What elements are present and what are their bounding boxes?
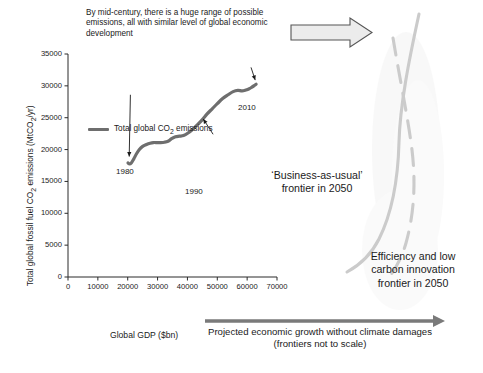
y-axis-title-sub2: 2 xyxy=(30,117,37,121)
legend-label-total-global-co2-emissions: Total global CO2 emissions xyxy=(114,124,212,135)
y-axis-title: Total global fossil fuel CO2 emissions (… xyxy=(25,86,37,306)
bottom-caption: Projected economic growth without climat… xyxy=(160,326,480,350)
y-axis-title-post: /yr) xyxy=(25,105,35,117)
bottom-caption-line1: Projected economic growth without climat… xyxy=(208,326,432,337)
plot-area xyxy=(0,40,300,305)
y-axis-title-mid: emissions (MtCO xyxy=(25,121,35,188)
figure-canvas: By mid-century, there is a huge range of… xyxy=(0,0,483,373)
x-axis-ticks xyxy=(68,277,277,281)
y-axis-title-pre: Total global fossil fuel CO xyxy=(25,192,35,287)
y-axis-ticks xyxy=(65,54,69,277)
axes xyxy=(68,54,277,277)
bottom-caption-line2: (frontiers not to scale) xyxy=(160,338,480,350)
annotation-2010: 2010 xyxy=(238,103,256,112)
efficiency-frontier-label: Efficiency and low carbon innovation fro… xyxy=(355,250,471,290)
annotation-1980: 1980 xyxy=(116,167,134,176)
chart-panel: 05000100001500020000250003000035000 0100… xyxy=(0,40,300,305)
business-as-usual-frontier-label: ‘Business-as-usual’ frontier in 2050 xyxy=(268,169,366,196)
y-axis-title-sub1: 2 xyxy=(30,188,37,192)
chart-legend: Total global CO2 emissions xyxy=(88,124,212,135)
x-tick-label-70000: 70000 xyxy=(254,282,300,291)
y-tick-label-35000: 35000 xyxy=(18,49,62,58)
annotation-arrowhead-2010 xyxy=(252,75,256,80)
annotation-1990: 1990 xyxy=(185,187,203,196)
legend-swatch-total-global-co2-emissions xyxy=(88,128,109,131)
annotation-arrowhead-1980 xyxy=(127,152,131,157)
legend-label-pre: Total global CO xyxy=(114,124,170,133)
right-block-arrow xyxy=(291,18,372,47)
legend-label-post: emissions xyxy=(174,124,213,133)
